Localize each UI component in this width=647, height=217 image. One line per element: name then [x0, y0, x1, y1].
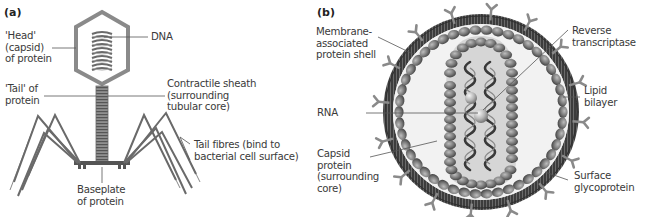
phage-tail-fibres-right: [124, 113, 196, 194]
label-lipid-bilayer: Lipid bilayer: [584, 85, 617, 108]
label-capsid-protein: Capsid protein (surrounding core): [317, 148, 379, 194]
figure-canvas: (a) (b) 'Head' (capsid) of protein DNA '…: [0, 0, 647, 217]
label-dna: DNA: [151, 31, 173, 43]
label-membrane-protein-shell: Membrane- associated protein shell: [316, 26, 376, 61]
label-contractile-sheath: Contractile sheath (surrounding tubular …: [167, 78, 256, 113]
label-surface-glycoprotein: Surface glycoprotein: [574, 170, 634, 193]
label-reverse-transcriptase: Reverse transcriptase: [572, 25, 636, 48]
reverse-transcriptase-2: [474, 109, 488, 123]
panel-label-a: (a): [4, 6, 21, 19]
label-baseplate: Baseplate of protein: [77, 184, 125, 207]
label-rna: RNA: [317, 107, 338, 119]
retrovirus: [366, 4, 589, 217]
label-tail-fibres: Tail fibres (bind to bacterial cell surf…: [194, 139, 299, 162]
phage-baseplate: [74, 161, 130, 165]
phage-contractile-sheath: [96, 86, 108, 162]
label-tail: 'Tail' of protein: [5, 83, 39, 106]
label-head-capsid: 'Head' (capsid) of protein: [5, 30, 52, 65]
reverse-transcriptase-1: [465, 92, 477, 104]
panel-label-b: (b): [317, 6, 335, 19]
